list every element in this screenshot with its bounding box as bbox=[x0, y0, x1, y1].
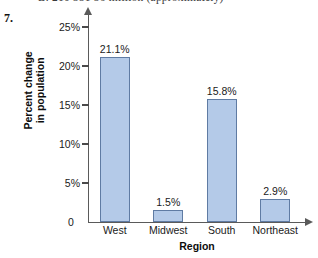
bar-value-midwest: 1.5% bbox=[138, 197, 198, 208]
y-axis-tick-20 bbox=[82, 65, 89, 66]
y-axis-tick-25 bbox=[82, 26, 89, 27]
bar-value-northeast: 2.9% bbox=[245, 186, 305, 197]
y-tick-label-0: 0 bbox=[68, 216, 74, 228]
bar-value-west: 21.1% bbox=[85, 44, 145, 55]
y-tick-label-25: 25% bbox=[59, 22, 80, 33]
bar-south bbox=[207, 99, 237, 222]
y-tick-label-20: 20% bbox=[59, 61, 80, 72]
y-axis-title: Percent change in population bbox=[22, 30, 47, 150]
bar-northeast bbox=[260, 199, 290, 222]
bar-value-south: 15.8% bbox=[192, 86, 252, 97]
x-axis-title: Region bbox=[88, 240, 306, 252]
y-tick-label-15: 15% bbox=[59, 100, 80, 111]
y-axis-arrow-icon bbox=[84, 7, 92, 15]
y-tick-label-5: 5% bbox=[65, 178, 80, 189]
bar-midwest bbox=[153, 210, 183, 222]
y-axis-tick-15 bbox=[82, 104, 89, 105]
bar-west bbox=[100, 57, 130, 222]
y-axis-title-line-1: Percent change bbox=[22, 30, 34, 150]
y-axis-tick-10 bbox=[82, 143, 89, 144]
y-tick-label-10: 10% bbox=[59, 139, 80, 150]
y-axis-tick-5 bbox=[82, 182, 89, 183]
bar-chart: Percent change in population 0 5%10%15%2… bbox=[0, 0, 318, 258]
x-category-label-northeast: Northeast bbox=[240, 225, 310, 236]
y-axis-title-line-2: in population bbox=[34, 30, 46, 150]
